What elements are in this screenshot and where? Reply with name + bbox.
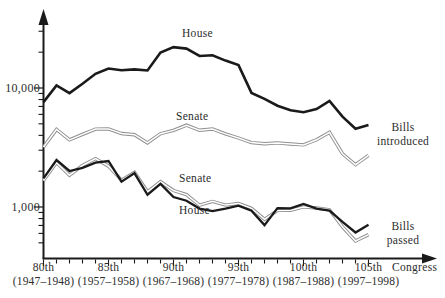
y-axis-tick-label-10000: 10,000 [0,81,40,95]
x-tick-congress-label: 100th [272,261,336,274]
y-axis-tick-label-1000: 1,000 [0,200,40,214]
senate-bills-passed-line [44,159,369,241]
bills-introduced-annotation-line2: introduced [369,135,437,149]
bills-line-chart-figure: 10,000 1,000 House Senate Senate House B… [0,0,445,298]
x-tick-congress-label: 85th [77,261,141,274]
senate-passed-line-label: Senate [179,172,211,185]
x-tick-congress-label: 80th [12,261,76,274]
bills-passed-annotation: Bills passed [369,220,437,247]
house-bills-passed-line [44,160,369,233]
senate-introduced-line-label: Senate [176,110,208,123]
bills-passed-annotation-line2: passed [369,234,437,248]
bills-passed-annotation-line1: Bills [369,220,437,234]
x-tick-congress-label: 90th [142,261,206,274]
bills-introduced-annotation-line1: Bills [369,121,437,135]
y-axis-arrow-icon [39,9,49,25]
house-introduced-line-label: House [182,27,213,40]
bills-introduced-annotation: Bills introduced [369,121,437,148]
senate-bills-passed-line-core [44,159,369,241]
x-tick-congress-label: 95th [207,261,271,274]
x-tick-congress-label: 105th [337,261,401,274]
house-passed-line-label: House [179,204,210,217]
x-tick-years-label: (1997–1998) [323,275,415,288]
line-chart-canvas [0,0,445,298]
